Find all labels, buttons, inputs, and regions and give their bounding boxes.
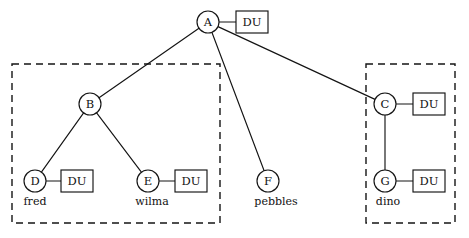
node-b: B [79,93,101,115]
person-labels-layer: fredwilmapebblesdino [24,195,401,208]
node-label-f: F [264,174,272,188]
du-box-label-g: DU [420,174,439,188]
node-label-b: B [86,97,94,111]
node-f: F [257,170,279,192]
du-box-label-a: DU [243,15,262,29]
du-box-label-d: DU [68,174,87,188]
diagram-canvas: DUDUDUDUDU ABCDEFG fredwilmapebblesdino [0,0,469,238]
du-box-label-c: DU [420,97,439,111]
person-label-pebbles: pebbles [254,195,298,208]
du-box-c: DU [413,93,445,115]
person-label-dino: dino [376,195,401,208]
node-label-c: C [381,97,390,111]
node-g: G [374,170,396,192]
person-label-wilma: wilma [135,195,169,208]
edge-a-b [99,28,199,97]
node-e: E [137,170,159,192]
node-label-a: A [203,15,213,29]
du-box-a: DU [236,11,268,33]
tree-diagram: DUDUDUDUDU ABCDEFG fredwilmapebblesdino [0,0,469,238]
edge-a-c [218,27,375,100]
edge-b-d [41,113,83,172]
du-box-d: DU [61,170,93,192]
node-d: D [24,170,46,192]
du-box-g: DU [413,170,445,192]
node-c: C [374,93,396,115]
tree-nodes-layer: ABCDEFG [24,11,396,192]
node-label-d: D [30,174,39,188]
du-box-label-e: DU [182,174,201,188]
edge-b-e [97,113,142,172]
node-a: A [197,11,219,33]
node-label-e: E [144,174,152,188]
node-label-g: G [380,174,389,188]
du-box-e: DU [175,170,207,192]
person-label-fred: fred [24,195,47,208]
